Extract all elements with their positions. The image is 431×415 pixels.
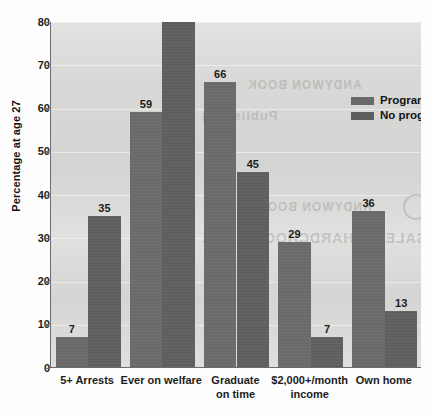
y-axis-tick-mark xyxy=(44,65,49,67)
bleed-through-ring-icon xyxy=(403,194,421,220)
bar-programme xyxy=(204,82,237,367)
y-axis-tick-mark xyxy=(44,151,49,153)
legend-item-programme: Programme xyxy=(351,93,421,108)
bar-programme xyxy=(130,112,163,367)
bar-programme xyxy=(278,242,311,367)
bar-programme xyxy=(56,337,89,367)
y-axis-tick-mark xyxy=(44,195,49,197)
bar-chart: 01020304050607080 Percentage at age 27 A… xyxy=(0,0,431,415)
bar-no-programme xyxy=(311,337,344,367)
bar-no-programme xyxy=(162,22,195,367)
bar-value-label: 59 xyxy=(130,99,163,110)
bar-value-label: 13 xyxy=(385,298,418,309)
gridline xyxy=(51,65,421,66)
gridline xyxy=(51,22,421,23)
bar-value-label: 36 xyxy=(352,198,385,209)
x-axis-category-line: income xyxy=(267,388,353,402)
bar-value-label: 29 xyxy=(278,229,311,240)
legend-item-no-programme: No programme xyxy=(351,108,421,123)
legend-label-no-programme: No programme xyxy=(380,110,421,122)
plot-area: ANDYWON BOOK Publishing ANDYWON BOOK SAL… xyxy=(50,22,421,368)
y-axis-tick-mark xyxy=(44,108,49,110)
y-axis-tick-mark xyxy=(44,281,49,283)
y-axis: 01020304050607080 xyxy=(0,0,50,415)
bar-no-programme xyxy=(237,172,270,367)
y-axis-tick-mark xyxy=(44,368,49,370)
legend-swatch-no-programme xyxy=(351,112,374,120)
y-axis-tick-mark xyxy=(44,238,49,240)
bar-value-label: 35 xyxy=(88,203,121,214)
y-axis-tick-mark xyxy=(44,22,49,24)
x-axis-category-label: Own home xyxy=(341,374,427,388)
bleed-through-text-3: ANDYWON BOOK xyxy=(247,78,362,92)
bar-no-programme xyxy=(88,216,121,367)
bar-value-label: 7 xyxy=(56,324,89,335)
bar-value-label: 66 xyxy=(204,69,237,80)
y-axis-title: Percentage at age 27 xyxy=(10,76,22,236)
legend-label-programme: Programme xyxy=(380,95,421,107)
y-axis-tick-mark xyxy=(44,324,49,326)
bar-no-programme xyxy=(385,311,418,367)
x-axis-category-line: Own home xyxy=(341,374,427,388)
legend-swatch-programme xyxy=(351,97,374,105)
bar-value-label: 7 xyxy=(311,324,344,335)
bar-value-label: 45 xyxy=(237,159,270,170)
bar-programme xyxy=(352,211,385,367)
legend: Programme No programme xyxy=(351,93,421,123)
